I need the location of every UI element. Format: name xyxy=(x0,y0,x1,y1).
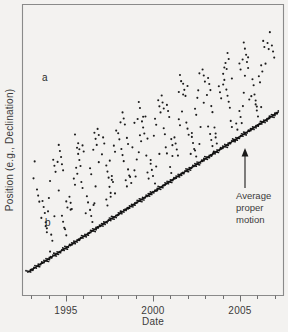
data-point-b xyxy=(190,169,192,171)
data-point-b xyxy=(67,248,69,250)
data-point-a xyxy=(228,58,230,60)
data-point-a xyxy=(92,149,94,151)
data-point-a xyxy=(208,83,210,85)
data-point-a xyxy=(40,217,42,219)
data-point-a xyxy=(127,143,129,145)
data-point-a xyxy=(98,134,100,136)
data-point-a xyxy=(176,148,178,150)
data-point-a xyxy=(55,171,57,173)
data-point-a xyxy=(224,62,226,64)
data-point-a xyxy=(34,160,36,162)
data-point-a xyxy=(97,128,99,130)
data-point-a xyxy=(80,181,82,183)
figure-container: 199520002005 Average proper motion a b D… xyxy=(0,0,288,332)
data-point-a xyxy=(77,153,79,155)
data-point-a xyxy=(77,142,79,144)
data-point-a xyxy=(86,195,88,197)
scatter-chart: 199520002005 Average proper motion a b D… xyxy=(0,0,288,332)
data-point-a xyxy=(126,185,128,187)
data-point-a xyxy=(177,155,179,157)
data-point-a xyxy=(127,168,129,170)
data-point-a xyxy=(218,85,220,87)
data-point-a xyxy=(204,81,206,83)
data-point-b xyxy=(207,158,209,160)
data-point-a xyxy=(76,147,78,149)
data-point-a xyxy=(164,133,166,135)
data-point-a xyxy=(93,132,95,134)
data-point-a xyxy=(211,111,213,113)
data-point-a xyxy=(148,178,150,180)
data-point-a xyxy=(87,201,89,203)
data-point-a xyxy=(244,75,246,77)
data-point-a xyxy=(173,136,175,138)
data-point-a xyxy=(161,94,163,96)
data-point-a xyxy=(136,158,138,160)
data-point-a xyxy=(243,92,245,94)
data-point-a xyxy=(98,161,100,163)
data-point-a xyxy=(226,52,228,54)
data-point-a xyxy=(52,159,54,161)
data-point-a xyxy=(103,142,105,144)
data-point-a xyxy=(58,189,60,191)
data-point-a xyxy=(170,172,172,174)
x-axis-tick-labels: 199520002005 xyxy=(54,305,252,316)
data-point-a xyxy=(126,137,128,139)
data-point-a xyxy=(78,159,80,161)
data-point-a xyxy=(59,150,61,152)
data-point-a xyxy=(105,164,107,166)
data-point-a xyxy=(65,200,67,202)
data-point-a xyxy=(110,196,112,198)
data-point-a xyxy=(125,179,127,181)
data-point-b xyxy=(227,146,229,148)
data-point-a xyxy=(89,209,91,211)
data-point-a xyxy=(141,120,143,122)
data-point-a xyxy=(240,68,242,70)
x-tick-label: 2000 xyxy=(141,305,165,316)
data-point-a xyxy=(231,77,233,79)
data-point-a xyxy=(171,155,173,157)
data-point-a xyxy=(143,132,145,134)
data-point-a xyxy=(79,165,81,167)
data-point-a xyxy=(155,124,157,126)
data-point-a xyxy=(85,212,87,214)
data-point-a xyxy=(44,212,46,214)
data-point-a xyxy=(215,136,217,138)
data-point-a xyxy=(47,210,49,212)
data-point-a xyxy=(96,144,98,146)
data-point-a xyxy=(154,118,156,120)
data-point-a xyxy=(222,83,224,85)
data-point-a xyxy=(200,126,202,128)
data-point-a xyxy=(60,156,62,158)
data-point-a xyxy=(111,179,113,181)
data-point-a xyxy=(111,175,113,177)
data-point-a xyxy=(257,115,259,117)
data-point-a xyxy=(150,159,152,161)
data-point-a xyxy=(231,126,233,128)
data-point-a xyxy=(197,89,199,91)
data-point-a xyxy=(133,122,135,124)
data-point-a xyxy=(175,142,177,144)
data-point-a xyxy=(195,114,197,116)
data-point-a xyxy=(49,251,51,253)
data-point-a xyxy=(178,118,180,120)
data-point-a xyxy=(183,89,185,91)
data-point-a xyxy=(242,58,244,60)
data-point-a xyxy=(95,138,97,140)
data-point-a xyxy=(150,163,152,165)
data-point-a xyxy=(155,165,157,167)
data-point-a xyxy=(43,206,45,208)
data-point-a xyxy=(167,110,169,112)
data-point-a xyxy=(210,139,212,141)
data-point-b xyxy=(48,261,50,263)
data-point-a xyxy=(245,54,247,56)
data-point-a xyxy=(112,181,114,183)
data-point-a xyxy=(74,184,76,186)
data-point-a xyxy=(51,240,53,242)
data-point-a xyxy=(110,192,112,194)
data-point-a xyxy=(93,202,95,204)
data-point-b xyxy=(218,152,220,154)
data-point-a xyxy=(272,50,274,52)
data-point-a xyxy=(41,200,43,202)
data-point-a xyxy=(46,231,48,233)
data-point-a xyxy=(76,173,78,175)
